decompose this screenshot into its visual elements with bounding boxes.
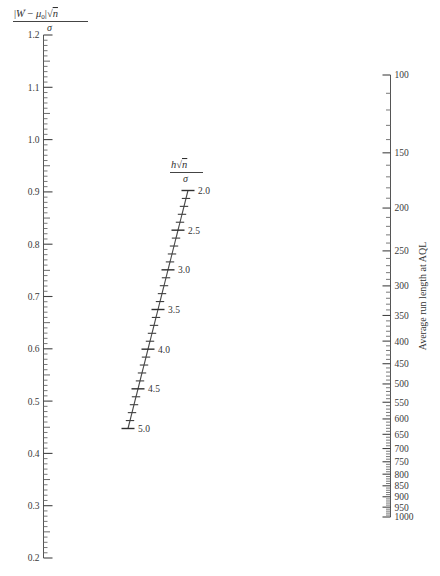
right-axis-tick-label: 600 [395, 414, 410, 424]
left-axis-tick-label: 1.2 [28, 30, 40, 40]
right-axis-tick-label: 500 [395, 379, 410, 389]
right-axis-title: Average run length at AQL [417, 242, 428, 351]
right-axis-tick-label: 950 [395, 503, 410, 513]
right-axis-tick-label: 900 [395, 492, 410, 502]
right-axis-tick-label: 550 [395, 398, 410, 408]
left-axis-tick-label: 0.2 [28, 553, 40, 563]
middle-axis-group: 2.02.53.03.54.04.55.0 [122, 186, 211, 434]
right-axis-tick-label: 400 [395, 337, 410, 347]
left-axis-title-numerator: |W̄ − μ0|√n [14, 8, 58, 21]
left-axis-tick-label: 0.8 [28, 240, 40, 250]
nomogram-figure: 1.21.11.00.90.80.70.60.50.40.30.2 |W̄ − … [0, 0, 440, 576]
right-axis-tick-label: 850 [395, 481, 410, 491]
right-axis-tick-label: 150 [395, 148, 410, 158]
right-axis-tick-label: 200 [395, 203, 410, 213]
left-axis-tick-label: 0.7 [28, 292, 40, 302]
left-axis-ticks [44, 35, 53, 558]
left-axis-tick-label: 0.3 [28, 501, 40, 511]
right-axis-tick-label: 300 [395, 281, 410, 291]
right-axis-tick-label: 250 [395, 246, 410, 256]
nomogram-page: 1.21.11.00.90.80.70.60.50.40.30.2 |W̄ − … [0, 0, 440, 576]
middle-axis-tick-label: 3.5 [168, 305, 180, 315]
right-axis-group: 1001502002503003504004505005506006507007… [383, 70, 414, 522]
left-axis-title-denominator: σ [47, 22, 53, 33]
middle-axis-title-numerator: h√n [171, 159, 187, 170]
right-axis-tick-label: 650 [395, 430, 410, 440]
right-axis-tick-label: 450 [395, 359, 410, 369]
right-axis-tick-label: 350 [395, 311, 410, 321]
left-axis-tick-label: 1.1 [28, 83, 40, 93]
left-axis-tick-label: 0.9 [28, 187, 40, 197]
left-axis-tick-label: 0.6 [28, 344, 40, 354]
right-axis-tick-label: 800 [395, 470, 410, 480]
right-axis-tick-label: 1000 [395, 512, 414, 522]
middle-axis-tick-label: 2.0 [198, 186, 210, 196]
left-axis-title: |W̄ − μ0|√n σ [13, 8, 88, 33]
right-axis-tick-label: 750 [395, 457, 410, 467]
middle-axis-title-denominator: σ [183, 173, 189, 184]
left-axis-tick-label: 0.5 [28, 397, 40, 407]
left-axis-tick-labels: 1.21.11.00.90.80.70.60.50.40.30.2 [28, 30, 40, 563]
right-axis-ticks [383, 75, 391, 517]
middle-axis-tick-labels: 2.02.53.03.54.04.55.0 [138, 186, 210, 434]
middle-axis-tick-label: 4.5 [148, 384, 160, 394]
left-axis-tick-label: 0.4 [28, 449, 40, 459]
middle-axis-tick-label: 4.0 [158, 345, 170, 355]
middle-axis-tick-label: 3.0 [178, 265, 190, 275]
left-axis-tick-label: 1.0 [28, 135, 40, 145]
right-axis-tick-labels: 1001502002503003504004505005506006507007… [395, 70, 414, 522]
right-axis-tick-label: 100 [395, 70, 410, 80]
right-axis-tick-label: 700 [395, 444, 410, 454]
middle-axis-tick-label: 5.0 [138, 424, 150, 434]
middle-axis-title: h√n σ [170, 159, 203, 184]
middle-axis-tick-label: 2.5 [188, 226, 200, 236]
left-axis-group: 1.21.11.00.90.80.70.60.50.40.30.2 [28, 30, 53, 563]
